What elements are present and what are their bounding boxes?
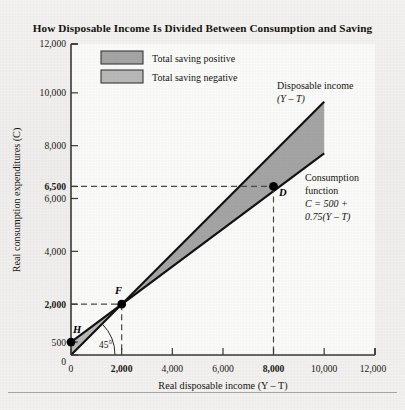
y-tick-label-2000: 2,000	[44, 299, 66, 310]
svg-text:Disposable income: Disposable income	[277, 80, 354, 91]
y-tick-label-0: 0	[61, 356, 66, 367]
legend-label-saving-positive: Total saving positive	[152, 53, 236, 64]
svg-text:Consumption: Consumption	[305, 172, 359, 183]
x-tick-label-4000: 4,000	[162, 363, 184, 374]
data-point-label-f: F	[114, 285, 122, 296]
x-tick-label-2000: 2,000	[111, 363, 133, 374]
data-point-h	[67, 338, 76, 347]
x-tick-label-10000: 10,000	[311, 363, 338, 374]
legend-swatch-saving-negative	[101, 70, 143, 83]
bottom-divider	[8, 392, 397, 393]
chart-plot: 45° 0 500 2,000	[0, 0, 405, 410]
svg-text:C = 500 +: C = 500 +	[305, 198, 348, 209]
x-axis-title: Real disposable income (Y – T)	[158, 380, 287, 392]
x-tick-label-12000: 12,000	[360, 363, 387, 374]
y-tick-label-4000: 4,000	[44, 246, 66, 257]
y-tick-label-500: 500	[52, 337, 67, 348]
y-tick-label-12000: 12,000	[40, 38, 67, 49]
x-tick-label-0: 0	[69, 363, 74, 374]
data-point-label-d: D	[278, 187, 287, 198]
data-point-f	[117, 300, 126, 309]
y-axis-title: Real consumption expenditures (C)	[11, 128, 23, 273]
data-point-label-h: H	[72, 324, 82, 335]
x-tick-label-8000: 8,000	[263, 363, 285, 374]
angle-label: 45°	[99, 340, 112, 350]
figure-container: How Disposable Income Is Divided Between…	[0, 0, 405, 410]
y-tick-label-8000: 8,000	[44, 140, 66, 151]
svg-text:0.75(Y – T): 0.75(Y – T)	[305, 211, 351, 223]
y-tick-label-10000: 10,000	[40, 87, 67, 98]
y-tick-label-6000: 6,000	[44, 193, 66, 204]
x-tick-label-6000: 6,000	[212, 363, 234, 374]
svg-text:(Y – T): (Y – T)	[277, 93, 305, 105]
y-tick-label-6500: 6,500	[44, 181, 66, 192]
legend-label-saving-negative: Total saving negative	[152, 72, 238, 83]
legend-swatch-saving-positive	[101, 51, 143, 64]
data-point-d	[269, 182, 278, 191]
svg-text:function: function	[305, 185, 338, 196]
